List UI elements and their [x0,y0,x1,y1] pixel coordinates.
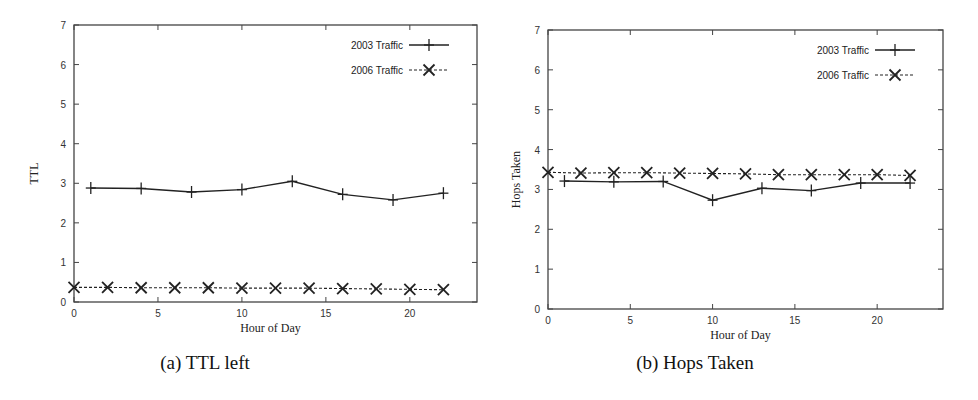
data-point-marker [757,182,767,194]
x-tick-label: 20 [404,308,416,319]
x-axis-label: Hour of Day [710,328,771,342]
x-tick-label: 0 [545,315,551,326]
data-point-marker [388,194,398,206]
y-tick-label: 0 [60,297,66,308]
y-tick-label: 6 [534,65,540,76]
data-point-marker [658,175,668,187]
data-point-marker [559,175,569,187]
y-tick-label: 2 [60,218,66,229]
y-tick-label: 6 [60,60,66,71]
chart-ttl-left: 0123456705101520Hour of DayTTL2003 Traff… [27,20,477,374]
legend-entry: 2003 Traffic [817,44,915,56]
x-tick-label: 10 [236,308,248,319]
series-2006-traffic [543,167,916,181]
y-tick-label: 5 [60,99,66,110]
legend-label: 2006 Traffic [351,65,403,76]
x-tick-label: 10 [707,315,719,326]
plot-frame [74,25,477,302]
x-tick-label: 20 [872,315,884,326]
series-2003-traffic [86,175,449,206]
x-axis-label: Hour of Day [240,321,301,335]
y-tick-label: 7 [60,20,66,31]
series-2006-traffic [69,282,449,295]
x-tick-label: 5 [155,308,161,319]
x-tick-label: 15 [789,315,801,326]
legend-entry: 2006 Traffic [351,65,449,77]
y-tick-label: 7 [534,25,540,36]
data-point-marker [609,176,619,188]
x-tick-label: 5 [628,315,634,326]
plus-marker-icon [890,44,900,56]
figure-caption: (b) Hops Taken [636,352,754,374]
legend-label: 2003 Traffic [817,45,869,56]
data-point-marker [438,187,448,199]
y-tick-label: 2 [534,224,540,235]
y-tick-label: 4 [60,139,66,150]
data-point-marker [237,184,247,196]
y-axis-label: Hops Taken [509,151,523,208]
y-tick-label: 1 [60,257,66,268]
data-point-marker [187,186,197,198]
y-tick-label: 0 [534,304,540,315]
plus-marker-icon [424,39,434,51]
chart-hops-taken: 0123456705101520Hour of DayHops Taken200… [509,25,943,374]
y-tick-label: 3 [60,178,66,189]
plot-frame [548,30,943,309]
data-point-marker [136,182,146,194]
figure-caption: (a) TTL left [160,352,250,374]
x-tick-label: 0 [71,308,77,319]
x-tick-label: 15 [320,308,332,319]
data-point-marker [856,177,866,189]
data-point-marker [708,194,718,206]
y-tick-label: 5 [534,105,540,116]
y-tick-label: 1 [534,264,540,275]
data-point-marker [287,175,297,187]
y-tick-label: 3 [534,184,540,195]
data-point-marker [806,185,816,197]
data-point-marker [86,182,96,194]
legend-entry: 2003 Traffic [351,39,449,51]
legend-entry: 2006 Traffic [817,70,915,82]
y-tick-label: 4 [534,145,540,156]
y-axis-label: TTL [27,163,41,185]
legend-label: 2003 Traffic [351,40,403,51]
data-point-marker [338,188,348,200]
series-2003-traffic [559,175,915,206]
figure-canvas: 0123456705101520Hour of DayTTL2003 Traff… [0,0,978,400]
legend-label: 2006 Traffic [817,70,869,81]
